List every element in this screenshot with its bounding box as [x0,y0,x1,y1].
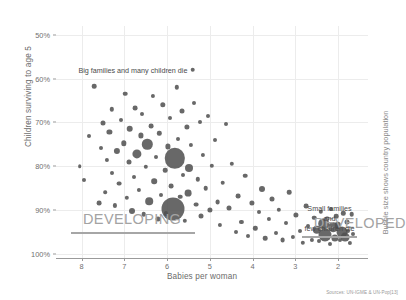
region-title-developing: DEVELOPING [83,211,181,227]
region-caption-developing: Big families and many children die [71,66,195,76]
region-box-developed [302,236,358,238]
region-caption-developed: Small families and few children die [302,204,358,234]
region-box-developing [71,232,195,234]
